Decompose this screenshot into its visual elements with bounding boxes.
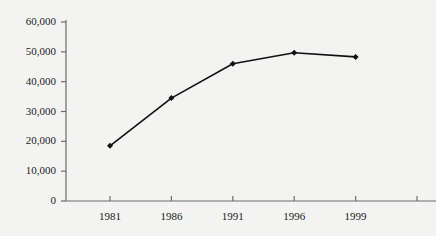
x-axis-tick-label: 1986	[141, 211, 201, 222]
x-axis-tick-label: 1981	[80, 211, 140, 222]
data-point-marker	[291, 50, 297, 56]
x-axis-tick-label: 1991	[203, 211, 263, 222]
y-axis-tick-label: 30,000	[0, 106, 56, 117]
y-axis-tick-label: 50,000	[0, 46, 56, 57]
x-axis-tick-label: 1996	[264, 211, 324, 222]
y-axis-tick-label: 60,000	[0, 16, 56, 27]
y-axis-tick-label: 0	[0, 195, 56, 206]
y-axis-tick-label: 40,000	[0, 76, 56, 87]
data-point-markers	[107, 50, 359, 149]
x-axis-ticks	[110, 196, 417, 201]
y-axis-ticks	[61, 22, 66, 201]
chart-plot-area	[0, 0, 436, 236]
data-point-marker	[353, 54, 359, 60]
x-axis-tick-label: 1999	[326, 211, 386, 222]
y-axis-tick-label: 20,000	[0, 135, 56, 146]
y-axis-tick-label: 10,000	[0, 165, 56, 176]
line-chart: 010,00020,00030,00040,00050,00060,000 19…	[0, 0, 436, 236]
